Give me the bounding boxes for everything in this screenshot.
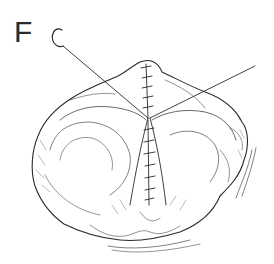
suture-line-top bbox=[141, 64, 153, 118]
needle-icon bbox=[52, 29, 63, 46]
surgical-illustration bbox=[0, 0, 274, 264]
